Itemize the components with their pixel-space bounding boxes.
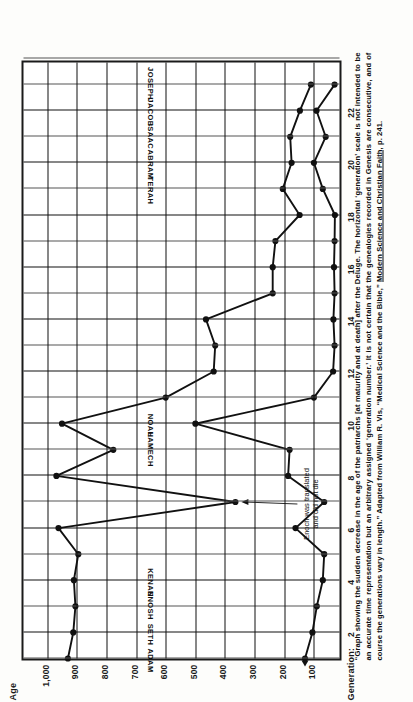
age-tick-label: 200: [277, 664, 287, 702]
age-tick-label: 800: [99, 664, 109, 702]
age-tick-label: 500: [188, 664, 198, 702]
gridline-horizontal: [284, 62, 285, 658]
gridline-vertical: [23, 266, 339, 267]
gridline-vertical: [23, 474, 339, 475]
gridline-vertical: [23, 161, 339, 162]
caption-source-title: Modern Science and Christian Faith,: [374, 147, 383, 282]
chart-series-layer: [23, 58, 343, 658]
gridline-vertical-minor: [23, 553, 339, 554]
age-tick-label: 100: [306, 664, 316, 702]
gridline-horizontal: [136, 62, 137, 658]
gridline-horizontal: [76, 62, 77, 658]
age-tick-label: 400: [217, 664, 227, 702]
gridline-horizontal: [106, 62, 107, 658]
gridline-vertical: [23, 318, 339, 319]
patriarch-label-joseph: JOSEPH: [145, 57, 154, 109]
caption-text-part2: p. 241.: [374, 120, 383, 147]
enoch-annotation-line1: Enoch was translated: [301, 457, 310, 549]
gridline-vertical: [23, 109, 339, 110]
enoch-annotation-line2: and did not die: [310, 457, 319, 549]
gridline-horizontal: [254, 62, 255, 658]
figure-caption: “Graph showing the sudden decrease in th…: [352, 52, 384, 660]
age-tick-label: 700: [129, 664, 139, 702]
gridline-vertical: [23, 422, 339, 423]
age-tick-label: 300: [247, 664, 257, 702]
gridline-vertical-minor: [23, 292, 339, 293]
figure-canvas: 1002003004005006007008009001,000 2468101…: [0, 0, 413, 702]
gridline-horizontal: [47, 62, 48, 658]
enoch-annotation: Enoch was translated and did not die: [301, 457, 320, 549]
gridline-vertical-minor: [23, 135, 339, 136]
gridline-horizontal: [165, 62, 166, 658]
gridline-vertical: [23, 631, 339, 632]
gridline-vertical-minor: [23, 657, 339, 658]
age-axis-title: Age: [7, 682, 17, 700]
gridline-vertical: [23, 214, 339, 215]
rotated-figure-wrapper: 1002003004005006007008009001,000 2468101…: [0, 0, 413, 702]
gridline-vertical-minor: [23, 83, 339, 84]
age-tick-label: 600: [158, 664, 168, 702]
patriarch-label-kenan: KENAN: [145, 556, 154, 608]
age-tick-label: 1,000: [40, 664, 50, 702]
gridline-vertical-minor: [23, 240, 339, 241]
chart-plot-area: [21, 60, 341, 660]
age-tick-label: 900: [69, 664, 79, 702]
gridline-vertical-minor: [23, 344, 339, 345]
gridline-vertical-minor: [23, 187, 339, 188]
gridline-vertical: [23, 579, 339, 580]
gridline-vertical-minor: [23, 605, 339, 606]
patriarch-label-noah: NOAH: [145, 399, 154, 451]
gridline-horizontal: [313, 62, 314, 658]
gridline-vertical-minor: [23, 500, 339, 501]
gridline-horizontal: [224, 62, 225, 658]
gridline-vertical: [23, 527, 339, 528]
gridline-vertical-minor: [23, 448, 339, 449]
gridline-vertical: [23, 370, 339, 371]
gridline-vertical-minor: [23, 57, 339, 58]
gridline-horizontal: [195, 62, 196, 658]
gridline-vertical-minor: [23, 396, 339, 397]
